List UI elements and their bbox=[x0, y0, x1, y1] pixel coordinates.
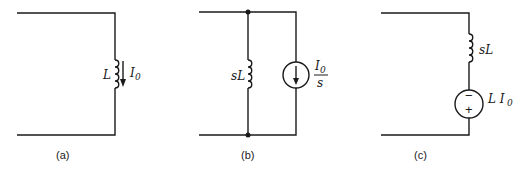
inductor-c bbox=[469, 34, 473, 62]
circuit-a: L I 0 (a) bbox=[17, 13, 141, 161]
inductor-label-a: L bbox=[102, 68, 111, 82]
caption-a: (a) bbox=[56, 149, 69, 161]
current-sub-a: 0 bbox=[135, 72, 141, 82]
inductor-label-c: sL bbox=[479, 43, 493, 57]
source-label-sub-c: 0 bbox=[507, 98, 513, 108]
plus-sign-c: + bbox=[465, 102, 473, 117]
wire-bottom-a bbox=[17, 88, 115, 135]
source-numerator-sub-b: 0 bbox=[320, 65, 326, 75]
caption-b: (b) bbox=[241, 149, 254, 161]
wire-top-c bbox=[381, 13, 469, 34]
wire-top-a bbox=[17, 13, 115, 60]
junction-dot-top bbox=[246, 10, 251, 15]
caption-c: (c) bbox=[414, 149, 427, 161]
inductor-a bbox=[115, 60, 119, 88]
minus-sign-c: − bbox=[465, 88, 473, 103]
wire-bottom-c bbox=[381, 118, 469, 135]
circuit-figure: L I 0 (a) sL I 0 s (b) − + sL L I 0 (c) bbox=[0, 0, 521, 170]
circuit-c: − + sL L I 0 (c) bbox=[381, 13, 513, 161]
junction-dot-bottom bbox=[246, 133, 251, 138]
circuit-b: sL I 0 s (b) bbox=[199, 10, 328, 162]
inductor-label-b: sL bbox=[231, 69, 245, 83]
arrowhead-icon bbox=[120, 79, 126, 87]
inductor-b bbox=[248, 60, 252, 88]
source-label-c: L I bbox=[487, 92, 505, 106]
source-denominator-b: s bbox=[317, 76, 323, 90]
